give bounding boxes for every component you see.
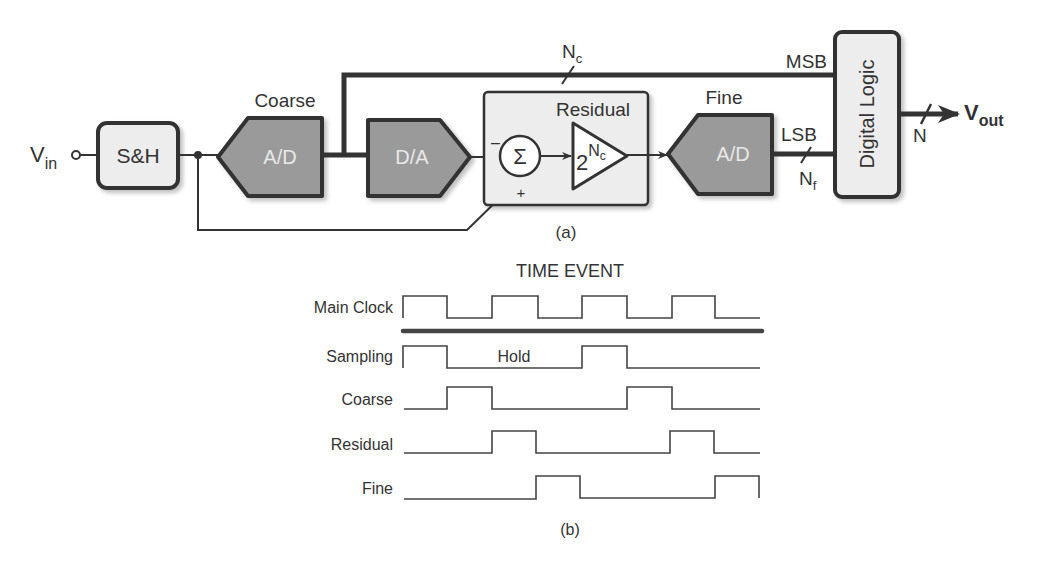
coarse-adc-label: A/D xyxy=(263,146,296,168)
coarse-title: Coarse xyxy=(254,90,315,111)
digital-logic-block: Digital Logic xyxy=(835,32,899,197)
sigma-symbol: Σ xyxy=(513,144,527,169)
coarse-adc-block: Coarse A/D xyxy=(218,90,322,196)
output-bits-label: N xyxy=(913,125,927,146)
sample-hold-label: S&H xyxy=(116,144,159,167)
timing-diagram: TIME EVENT Main Clock Sampling Coarse Re… xyxy=(314,261,762,538)
minus-sign: – xyxy=(491,134,500,151)
vout-label: Vout xyxy=(964,100,1004,129)
signal-label-coarse: Coarse xyxy=(341,391,393,408)
sample-hold-block: S&H xyxy=(98,123,178,188)
plus-sign: + xyxy=(517,184,526,201)
waveform-residual xyxy=(404,431,760,453)
residual-title: Residual xyxy=(556,99,630,120)
residual-block: Residual – + Σ 2Nc xyxy=(484,92,648,205)
vin-label: Vin xyxy=(30,142,57,172)
signal-label-fine: Fine xyxy=(362,480,393,497)
msb-label: MSB xyxy=(786,51,827,72)
fine-adc-block: Fine A/D xyxy=(668,87,772,194)
dac-block: D/A xyxy=(368,120,470,196)
signal-label-main-clock: Main Clock xyxy=(314,299,394,316)
signal-label-residual: Residual xyxy=(331,436,393,453)
waveform-main-clock xyxy=(403,296,760,318)
fine-adc-label: A/D xyxy=(716,143,749,165)
figure-canvas: Vin S&H Coarse A/D Nc MSB D/A xyxy=(0,0,1051,569)
coarse-bits-label: Nc xyxy=(562,41,583,66)
fine-bits-label: Nf xyxy=(799,168,817,193)
caption-b: (b) xyxy=(560,521,580,538)
waveform-sampling xyxy=(403,346,760,368)
waveform-coarse xyxy=(404,387,760,409)
input-terminal-icon xyxy=(72,151,80,159)
lsb-label: LSB xyxy=(781,124,817,145)
digital-logic-label: Digital Logic xyxy=(856,60,878,169)
caption-a: (a) xyxy=(556,223,577,242)
timing-title: TIME EVENT xyxy=(516,261,624,281)
waveform-fine xyxy=(404,476,759,499)
dac-label: D/A xyxy=(395,146,429,168)
hold-label: Hold xyxy=(498,348,531,365)
block-diagram: Vin S&H Coarse A/D Nc MSB D/A xyxy=(30,32,1004,242)
fine-title: Fine xyxy=(706,87,743,108)
signal-label-sampling: Sampling xyxy=(326,348,393,365)
